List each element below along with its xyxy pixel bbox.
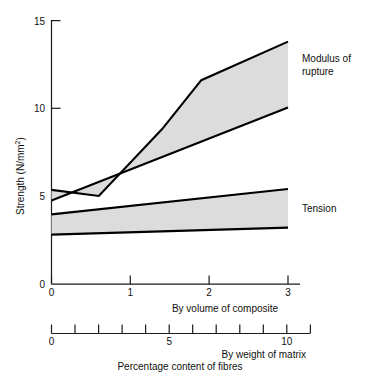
y-axis-title-close: ) (15, 137, 26, 140)
x-axis-1-title: By volume of composite (172, 303, 279, 314)
band-tension (52, 189, 289, 235)
x-axis-by-weight-of-matrix: 0 5 10 By weight of matrix (49, 325, 311, 361)
plot-area (52, 42, 289, 235)
x1-tick-label-1: 1 (128, 287, 134, 298)
y-tick-label-15: 15 (34, 16, 46, 27)
y-axis-title-text: Strength (N/mm2) (14, 137, 26, 215)
series-label-modulus-line1: Modulus of (302, 53, 351, 64)
y-axis-title: Strength (N/mm2) (14, 137, 26, 215)
y-tick-label-5: 5 (39, 191, 45, 202)
x2-tick-label-5: 5 (166, 336, 172, 347)
x2-tick-label-10: 10 (281, 336, 293, 347)
band-modulus-of-rupture (52, 42, 289, 201)
x2-tick-label-0: 0 (49, 336, 55, 347)
chart-svg: 15 10 5 0 Strength (N/mm2) (0, 0, 377, 373)
x1-tick-label-3: 3 (285, 287, 291, 298)
x1-tick-label-0: 0 (49, 287, 55, 298)
series-label-tension: Tension (302, 203, 336, 214)
y-axis: 15 10 5 0 (34, 16, 61, 290)
y-tick-label-10: 10 (34, 103, 46, 114)
x-axis-2-title: By weight of matrix (222, 349, 306, 360)
chart-figure: 15 10 5 0 Strength (N/mm2) (0, 0, 377, 373)
x1-tick-label-2: 2 (206, 287, 212, 298)
chart-caption: Percentage content of fibres (117, 361, 242, 372)
y-tick-label-0: 0 (39, 279, 45, 290)
x-axis-by-volume-of-composite: 0 1 2 3 By volume of composite (49, 276, 300, 315)
y-axis-title-main: Strength (N/mm (15, 144, 26, 215)
series-label-modulus-line2: rupture (302, 66, 334, 77)
